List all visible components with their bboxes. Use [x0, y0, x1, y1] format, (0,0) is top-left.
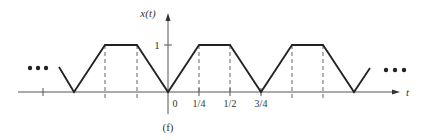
x-tick-label-0: 0 [173, 98, 178, 109]
y-tick-label-1: 1 [154, 39, 160, 51]
figure-caption: (f) [163, 121, 174, 134]
x-tick-label-1-4: 1/4 [193, 98, 206, 109]
waveform-plot: x(t) t 1 0 1/4 1/2 3/4 (f) [0, 0, 423, 140]
trapezoid-waveform-figure: x(t) t 1 0 1/4 1/2 3/4 (f) [0, 0, 423, 140]
y-axis-label: x(t) [139, 7, 156, 20]
x-tick-label-1-2: 1/2 [224, 98, 237, 109]
dashed-guides [105, 45, 323, 98]
x-axis-label: t [406, 86, 410, 98]
y-axis-arrow-icon [166, 13, 171, 21]
x-tick-label-3-4: 3/4 [255, 98, 268, 109]
t-axis-arrow-icon [392, 90, 400, 95]
ellipsis-right-icon [384, 68, 406, 72]
ellipsis-left-icon [28, 66, 48, 70]
